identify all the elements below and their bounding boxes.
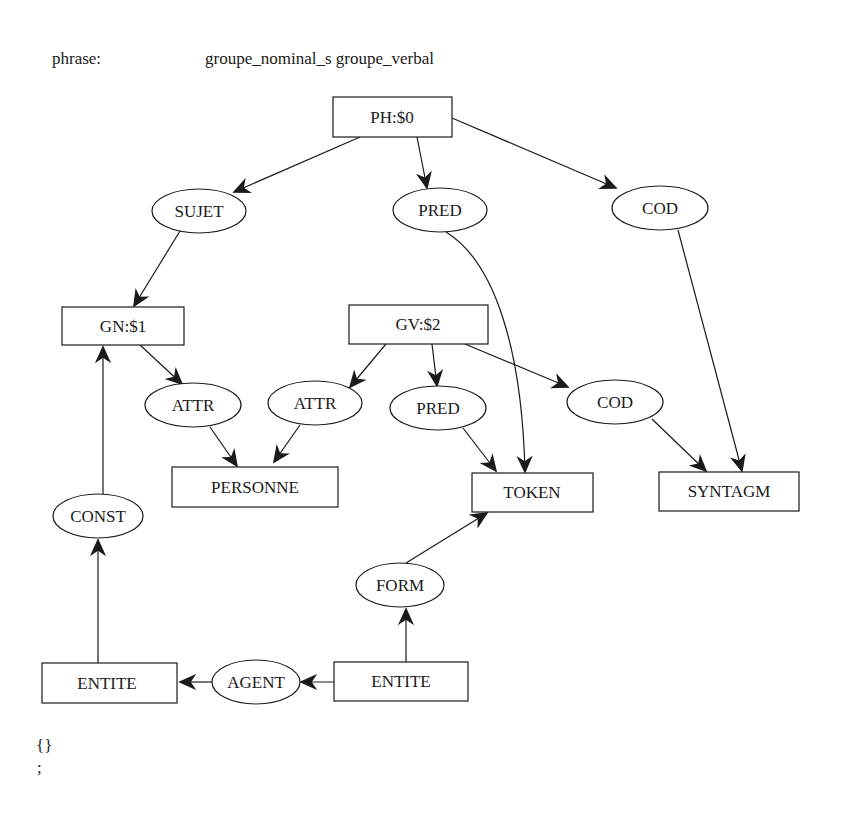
svg-text:TOKEN: TOKEN — [503, 483, 560, 502]
node-entite-left: ENTITE — [42, 663, 177, 703]
svg-text:CONST: CONST — [70, 507, 126, 526]
edge-gv-pred — [432, 344, 437, 386]
svg-text:GV:$2: GV:$2 — [395, 315, 440, 334]
node-attr-gn: ATTR — [145, 383, 241, 427]
footer-braces: {} — [36, 736, 52, 756]
svg-text:ATTR: ATTR — [172, 396, 215, 415]
svg-text:COD: COD — [597, 393, 633, 412]
edge-gv-attr — [350, 344, 386, 387]
node-personne: PERSONNE — [172, 467, 338, 507]
edge-gv-cod — [465, 344, 568, 387]
edge-ph-cod — [452, 118, 616, 188]
svg-text:SUJET: SUJET — [174, 202, 224, 221]
node-cod-gv: COD — [567, 380, 663, 424]
svg-text:PH:$0: PH:$0 — [370, 108, 413, 127]
svg-text:PRED: PRED — [418, 201, 461, 220]
node-cod-top: COD — [612, 186, 708, 230]
node-const: CONST — [53, 494, 143, 538]
node-token: TOKEN — [472, 473, 593, 512]
svg-text:FORM: FORM — [376, 576, 424, 595]
node-gv: GV:$2 — [349, 305, 488, 344]
node-entite-right: ENTITE — [334, 662, 468, 701]
edge-cod-syntagm-2 — [652, 419, 706, 471]
edge-ph-pred — [417, 137, 427, 188]
node-pred-top: PRED — [393, 188, 487, 232]
svg-text:GN:$1: GN:$1 — [100, 317, 146, 336]
edge-ph-sujet — [234, 137, 360, 192]
svg-text:COD: COD — [642, 199, 678, 218]
svg-text:ENTITE: ENTITE — [77, 674, 136, 693]
node-attr-gv: ATTR — [268, 381, 362, 425]
svg-text:AGENT: AGENT — [227, 673, 285, 692]
edge-form-token — [406, 513, 487, 563]
svg-text:PERSONNE: PERSONNE — [211, 478, 299, 497]
edge-attr-personne-2 — [274, 425, 300, 462]
node-sujet: SUJET — [152, 189, 246, 233]
semantic-graph: PH:$0 GN:$1 GV:$2 PERSONNE TOKEN SYNTAGM… — [0, 0, 844, 829]
svg-text:PRED: PRED — [416, 399, 459, 418]
svg-text:ENTITE: ENTITE — [371, 672, 430, 691]
node-form: FORM — [356, 563, 444, 607]
node-gn: GN:$1 — [62, 307, 184, 345]
node-agent: AGENT — [212, 660, 300, 704]
edge-pred-token-2 — [463, 428, 496, 471]
edge-cod-syntagm — [678, 230, 742, 471]
edge-sujet-gn — [134, 231, 180, 306]
svg-text:SYNTAGM: SYNTAGM — [688, 482, 771, 501]
edge-attr-personne-1 — [210, 427, 237, 466]
footer-terminator: ; — [37, 758, 42, 778]
node-ph: PH:$0 — [333, 97, 452, 137]
svg-text:ATTR: ATTR — [294, 394, 337, 413]
edge-gn-attr — [140, 345, 182, 384]
node-syntagm: SYNTAGM — [659, 472, 799, 511]
node-pred-gv: PRED — [390, 386, 486, 430]
